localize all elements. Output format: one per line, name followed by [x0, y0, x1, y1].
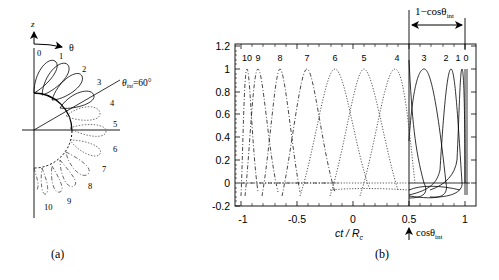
svg-text:9: 9: [67, 196, 71, 206]
svg-text:0: 0: [224, 177, 230, 189]
svg-text:10: 10: [242, 53, 252, 63]
svg-text:0.4: 0.4: [215, 131, 230, 143]
svg-text:5: 5: [361, 53, 366, 63]
svg-text:10: 10: [44, 202, 53, 212]
top-annotation: 1−cosθint: [415, 5, 454, 20]
svg-text:8: 8: [277, 53, 282, 63]
svg-text:7: 7: [102, 164, 106, 174]
svg-text:6: 6: [113, 144, 117, 154]
detector-arc: [34, 93, 72, 131]
z-label: z: [30, 19, 35, 29]
y-tick-labels: 1.2 1 0.8 0.6 0.4 0.2 0 -0.2: [212, 40, 230, 212]
svg-text:0: 0: [350, 213, 356, 225]
svg-text:3: 3: [97, 77, 101, 87]
y-ticks: [235, 46, 476, 206]
svg-text:0.2: 0.2: [215, 154, 230, 166]
figure: z θ θint=60°: [0, 0, 499, 280]
svg-text:4: 4: [110, 98, 115, 108]
bottom-annotation: cosθint: [416, 227, 442, 241]
svg-text:-0.2: -0.2: [212, 200, 230, 212]
svg-text:0.5: 0.5: [402, 213, 417, 225]
svg-text:4: 4: [394, 53, 399, 63]
plot-frame: [235, 44, 476, 206]
angle-line: [34, 80, 120, 130]
svg-text:9: 9: [255, 53, 260, 63]
svg-text:1: 1: [462, 213, 468, 225]
svg-text:-0.5: -0.5: [288, 213, 306, 225]
theta-arrow-icon: [34, 44, 62, 47]
angle-label: θint=60°: [122, 78, 152, 89]
dashdot-lobes: [34, 152, 89, 194]
svg-text:1.2: 1.2: [215, 40, 230, 52]
curve-labels: 10 9 8 7 6 5 4 3 2 1 0: [242, 53, 469, 63]
svg-text:2: 2: [82, 64, 86, 74]
svg-text:0: 0: [37, 48, 41, 58]
solid-curves: [409, 60, 470, 198]
svg-text:3: 3: [421, 53, 426, 63]
svg-text:6: 6: [332, 53, 337, 63]
panel-b: 1.2 1 0.8 0.6 0.4 0.2 0 -0.2 -1 -0.5 0 0…: [212, 5, 476, 261]
x-ticks: [241, 44, 465, 206]
panel-a: z θ θint=60°: [22, 19, 152, 261]
svg-text:1: 1: [455, 53, 460, 63]
x-tick-labels: -1 -0.5 0 0.5 1: [238, 213, 468, 225]
dotted-curves: [240, 69, 415, 196]
panel-b-caption: (b): [375, 247, 389, 261]
svg-text:0.6: 0.6: [215, 108, 230, 120]
svg-text:2: 2: [443, 53, 448, 63]
svg-text:0.8: 0.8: [215, 86, 230, 98]
svg-text:1: 1: [59, 51, 63, 61]
svg-text:8: 8: [88, 181, 92, 191]
x-axis-label: ct / Rc: [335, 227, 364, 241]
svg-text:0: 0: [463, 53, 468, 63]
svg-text:-1: -1: [238, 213, 247, 225]
svg-text:1: 1: [224, 63, 230, 75]
theta-label: θ: [69, 42, 74, 53]
svg-text:5: 5: [113, 119, 117, 129]
svg-text:7: 7: [304, 53, 309, 63]
dashdot-curves: [241, 69, 340, 196]
panel-a-caption: (a): [51, 247, 64, 261]
